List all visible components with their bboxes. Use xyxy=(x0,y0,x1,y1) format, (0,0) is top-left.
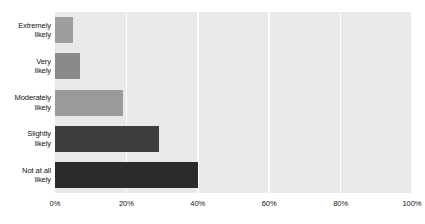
x-axis-tick-label: 40% xyxy=(190,198,205,209)
bar-row xyxy=(55,126,412,152)
y-axis-tick-label: Slightly likely xyxy=(0,129,51,148)
x-axis-tick-label: 60% xyxy=(262,198,277,209)
bar-chart: Extremely likelyVery likelyModerately li… xyxy=(0,0,425,224)
x-axis-tick-label: 0% xyxy=(50,198,61,209)
bar xyxy=(55,17,73,43)
x-axis-tick-label: 20% xyxy=(119,198,134,209)
bar xyxy=(55,90,123,116)
bar-row xyxy=(55,17,412,43)
bar xyxy=(55,53,80,79)
plot-area xyxy=(55,12,412,193)
bar-row xyxy=(55,53,412,79)
x-axis-tick-label: 100% xyxy=(402,198,421,209)
y-axis-tick-label: Extremely likely xyxy=(0,21,51,40)
bar-series xyxy=(55,12,412,193)
y-axis-tick-label: Not at all likely xyxy=(0,166,51,185)
y-axis-tick-label: Moderately likely xyxy=(0,93,51,112)
x-axis-tick-label: 80% xyxy=(333,198,348,209)
bar-row xyxy=(55,162,412,188)
x-axis-labels: 0%20%40%60%80%100% xyxy=(0,198,425,214)
bar-row xyxy=(55,90,412,116)
y-axis-tick-label: Very likely xyxy=(0,57,51,76)
bar xyxy=(55,126,159,152)
bar xyxy=(55,162,198,188)
y-axis-labels: Extremely likelyVery likelyModerately li… xyxy=(0,12,51,193)
